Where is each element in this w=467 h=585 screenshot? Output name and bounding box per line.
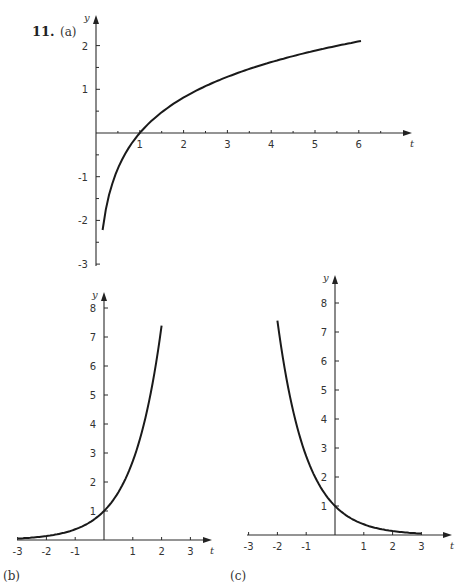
y-tick-label: 5 — [90, 390, 96, 401]
x-axis-arrow-icon — [203, 537, 212, 543]
y-tick-label: 8 — [321, 298, 327, 309]
y-axis-arrow-icon — [101, 292, 107, 301]
figure-canvas: 11. (a) (b) (c) ty123456-3-1-212 ty-3-2-… — [0, 0, 467, 585]
chart-panel-c: ty-3-2-112312345678 — [244, 272, 455, 552]
x-tick-label: -1 — [301, 541, 311, 552]
function-curve — [277, 321, 421, 534]
y-tick-label: 7 — [321, 327, 327, 338]
y-tick-label: -3 — [78, 259, 88, 270]
x-axis-arrow-icon — [403, 130, 412, 136]
x-tick-label: 1 — [137, 139, 143, 150]
y-axis-arrow-icon — [93, 15, 99, 24]
panel-a-label: (a) — [60, 25, 77, 39]
x-tick-label: 4 — [268, 139, 274, 150]
y-tick-label: 1 — [82, 84, 88, 95]
x-tick-label: -2 — [272, 541, 282, 552]
x-tick-label: -3 — [13, 546, 23, 557]
y-tick-label: 1 — [90, 506, 96, 517]
y-tick-label: 6 — [90, 361, 96, 372]
panel-b-label: (b) — [3, 569, 20, 583]
x-tick-label: 2 — [158, 546, 164, 557]
y-tick-label: 2 — [82, 41, 88, 52]
y-axis-label: y — [91, 289, 98, 300]
x-axis-label: t — [450, 540, 455, 551]
y-tick-label: 5 — [321, 385, 327, 396]
y-tick-label: 4 — [90, 419, 96, 430]
x-tick-label: 2 — [180, 139, 186, 150]
x-tick-label: 1 — [361, 541, 367, 552]
y-axis-arrow-icon — [332, 275, 338, 284]
x-tick-label: 1 — [130, 546, 136, 557]
problem-number: 11. — [32, 24, 55, 39]
y-tick-label: 2 — [321, 472, 327, 483]
chart-panel-a: ty123456-3-1-212 — [78, 12, 415, 270]
x-tick-label: 6 — [356, 139, 362, 150]
panel-c-label: (c) — [230, 569, 246, 583]
function-curve — [103, 41, 361, 230]
y-tick-label: 3 — [321, 443, 327, 454]
x-tick-label: -3 — [244, 541, 254, 552]
x-axis-arrow-icon — [443, 532, 452, 538]
y-tick-label: -1 — [78, 172, 88, 183]
x-tick-label: 2 — [389, 541, 395, 552]
y-axis-label: y — [322, 272, 329, 283]
y-tick-label: 2 — [90, 477, 96, 488]
chart-panel-b: ty-3-2-112312345678 — [13, 289, 215, 557]
x-tick-label: 3 — [187, 546, 193, 557]
x-tick-label: -2 — [41, 546, 51, 557]
y-tick-label: 1 — [321, 501, 327, 512]
x-tick-label: -1 — [70, 546, 80, 557]
x-tick-label: 3 — [224, 139, 230, 150]
y-axis-label: y — [83, 12, 90, 23]
y-tick-label: -2 — [78, 215, 88, 226]
x-tick-label: 3 — [418, 541, 424, 552]
y-tick-label: 6 — [321, 356, 327, 367]
x-axis-label: t — [210, 545, 215, 556]
y-tick-label: 7 — [90, 332, 96, 343]
y-tick-label: 3 — [90, 448, 96, 459]
x-axis-label: t — [410, 138, 415, 149]
y-tick-label: 4 — [321, 414, 327, 425]
x-tick-label: 5 — [312, 139, 318, 150]
y-tick-label: 8 — [90, 303, 96, 314]
